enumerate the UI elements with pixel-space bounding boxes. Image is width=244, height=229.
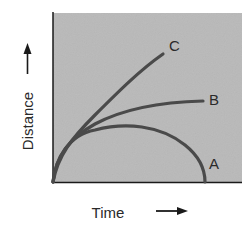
x-axis-label: Time xyxy=(92,204,125,221)
curve-label-a: A xyxy=(209,155,219,172)
up-arrow-icon xyxy=(24,43,32,74)
curve-label-c: C xyxy=(169,37,180,54)
right-arrow-icon xyxy=(156,207,188,215)
distance-time-chart: C B A Distance Time xyxy=(0,0,244,229)
curve-label-b: B xyxy=(209,91,219,108)
y-axis-label: Distance xyxy=(19,92,36,150)
